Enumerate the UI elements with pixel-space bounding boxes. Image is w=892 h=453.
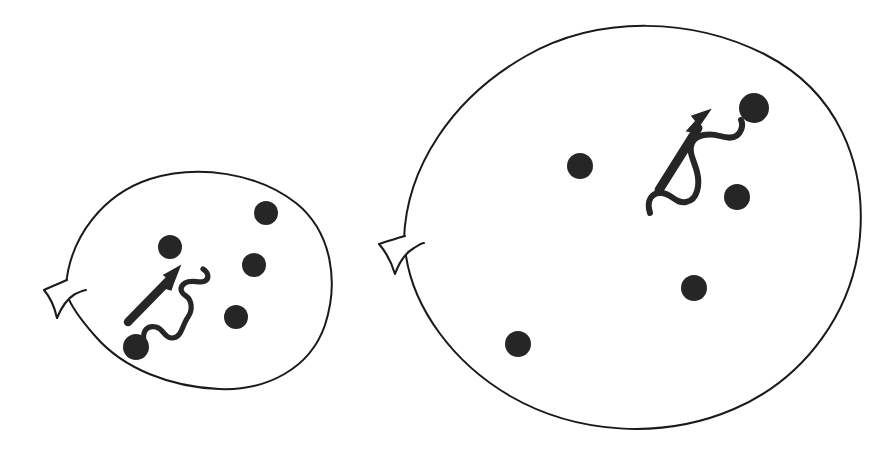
granule [254, 201, 278, 225]
cell-diagram-canvas [0, 0, 892, 453]
granule [158, 235, 182, 259]
granule [505, 331, 531, 357]
granule [724, 184, 750, 210]
granule [681, 275, 707, 301]
figure-root [0, 0, 892, 453]
granule [567, 153, 593, 179]
granule [242, 253, 266, 277]
granule [224, 305, 248, 329]
